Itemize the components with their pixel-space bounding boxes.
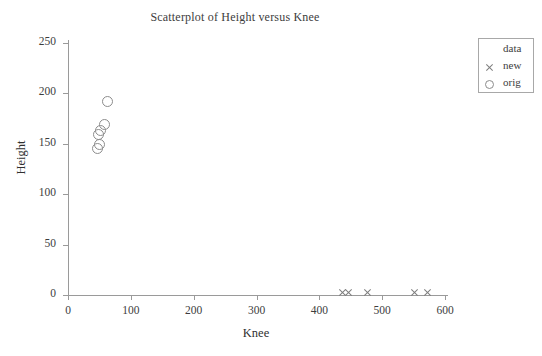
y-tick-label: 150 <box>16 136 56 148</box>
x-tick-label: 300 <box>235 304 279 316</box>
legend-label-new: new <box>503 59 521 71</box>
x-tick-mark <box>131 295 132 300</box>
legend-label-orig: orig <box>503 76 521 88</box>
y-tick-label: 200 <box>16 85 56 97</box>
circle-marker-icon <box>485 80 494 89</box>
x-tick-mark <box>445 295 446 300</box>
legend-entry-new[interactable]: new <box>479 59 535 75</box>
legend-title: data <box>503 42 521 54</box>
scatterplot-figure: Scatterplot of Height versus Knee Height… <box>0 0 542 356</box>
x-tick-mark <box>257 295 258 300</box>
x-tick-label: 600 <box>423 304 467 316</box>
legend-title-row: data <box>479 42 535 58</box>
legend-entry-orig[interactable]: orig <box>479 76 535 92</box>
x-tick-mark <box>382 295 383 300</box>
x-tick-label: 0 <box>46 304 90 316</box>
x-tick-label: 500 <box>360 304 404 316</box>
chart-title: Scatterplot of Height versus Knee <box>0 10 470 25</box>
x-tick-label: 100 <box>109 304 153 316</box>
x-tick-label: 200 <box>172 304 216 316</box>
y-tick-label: 50 <box>16 237 56 249</box>
plot-area <box>68 43 445 295</box>
x-axis-label: Knee <box>166 326 346 341</box>
y-tick-label: 0 <box>16 287 56 299</box>
y-tick-label: 250 <box>16 35 56 47</box>
x-tick-mark <box>319 295 320 300</box>
y-tick-label: 100 <box>16 186 56 198</box>
legend-box: data new orig <box>478 38 534 93</box>
x-tick-mark <box>68 295 69 300</box>
x-tick-label: 400 <box>297 304 341 316</box>
cross-marker-icon <box>485 63 494 72</box>
x-tick-mark <box>194 295 195 300</box>
